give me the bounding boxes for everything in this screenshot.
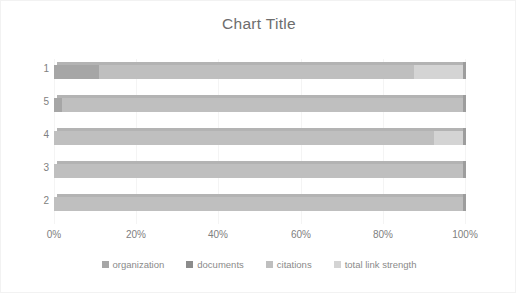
x-axis-tick-label: 100% <box>435 229 495 241</box>
bar-side-face <box>463 62 466 79</box>
plot-area <box>54 59 466 224</box>
x-axis-tick-label: 80% <box>353 229 413 241</box>
bar-row[interactable] <box>54 95 466 112</box>
y-axis-tick-label: 5 <box>23 96 49 108</box>
y-axis-tick-label: 1 <box>23 63 49 75</box>
y-axis-tick-label: 4 <box>23 129 49 141</box>
bar-side-face <box>463 161 466 178</box>
chart-title: Chart Title <box>1 15 516 33</box>
bar-body <box>54 197 463 211</box>
bar-side-face <box>463 128 466 145</box>
legend-label: organization <box>113 259 165 270</box>
legend-item[interactable]: organization <box>102 259 165 270</box>
x-axis-tick-label: 60% <box>271 229 331 241</box>
legend-item[interactable]: documents <box>186 259 243 270</box>
bar-body <box>54 98 463 112</box>
chart-legend: organizationdocumentscitationstotal link… <box>1 259 516 270</box>
bar-segment[interactable] <box>54 65 99 79</box>
legend-label: total link strength <box>345 259 417 270</box>
bar-body <box>54 65 463 79</box>
legend-item[interactable]: citations <box>266 259 312 270</box>
bar-body <box>54 164 463 178</box>
bar-body <box>54 131 463 145</box>
bar-row[interactable] <box>54 62 466 79</box>
bar-segment[interactable] <box>62 98 463 112</box>
bar-row[interactable] <box>54 161 466 178</box>
bar-segment[interactable] <box>54 164 463 178</box>
legend-swatch-icon <box>186 261 193 268</box>
y-axis-tick-label: 3 <box>23 162 49 174</box>
bar-segment[interactable] <box>99 65 414 79</box>
bar-segment[interactable] <box>54 197 463 211</box>
bar-segment[interactable] <box>414 65 463 79</box>
legend-swatch-icon <box>102 261 109 268</box>
x-axis-tick-label: 40% <box>188 229 248 241</box>
legend-swatch-icon <box>266 261 273 268</box>
bar-side-face <box>463 194 466 211</box>
legend-swatch-icon <box>334 261 341 268</box>
bar-segment[interactable] <box>54 131 434 145</box>
chart-container: Chart Title 15432 0%20%40%60%80%100% org… <box>0 0 516 293</box>
legend-label: citations <box>277 259 312 270</box>
legend-label: documents <box>197 259 243 270</box>
x-axis-tick-label: 0% <box>24 229 84 241</box>
bar-segment[interactable] <box>54 98 62 112</box>
bar-row[interactable] <box>54 194 466 211</box>
legend-item[interactable]: total link strength <box>334 259 417 270</box>
bar-segment[interactable] <box>434 131 463 145</box>
y-axis-tick-label: 2 <box>23 195 49 207</box>
bar-row[interactable] <box>54 128 466 145</box>
bar-side-face <box>463 95 466 112</box>
x-axis-tick-label: 20% <box>106 229 166 241</box>
